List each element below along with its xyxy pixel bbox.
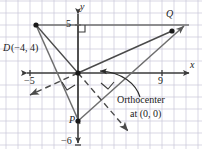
right-angle-marks (62, 25, 114, 90)
point-coords-D: (−4, 4) (11, 43, 38, 53)
geometry-figure: x y −5 9 5 −6 D (−4, 4) Q P Orthocenter … (0, 0, 202, 149)
right-angle-mark-right (101, 82, 114, 89)
point-orthocenter (75, 70, 80, 75)
right-angle-mark-top (78, 25, 85, 32)
orthocenter-annotation-line1: Orthocenter (117, 95, 165, 105)
point-label-D: D (3, 43, 10, 53)
x-axis-label: x (190, 60, 194, 70)
point-label-Q: Q (166, 9, 173, 19)
point-Q (169, 28, 174, 33)
point-label-P: P (69, 115, 75, 125)
x-tick-label-9: 9 (158, 76, 163, 86)
y-tick-label-neg6: −6 (61, 136, 72, 146)
y-tick-label-5: 5 (66, 19, 71, 29)
orthocenter-annotation-line2: at (0, 0) (130, 109, 161, 119)
point-P (75, 118, 80, 123)
point-D (33, 22, 38, 27)
axis-lines (27, 14, 189, 143)
y-axis-label: y (80, 2, 84, 12)
x-tick-label-neg5: −5 (24, 76, 35, 86)
